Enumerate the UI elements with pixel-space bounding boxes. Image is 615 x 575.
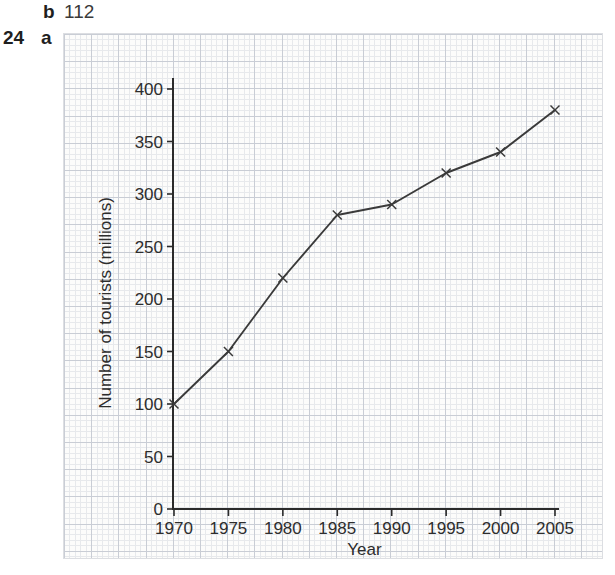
y-tick-label: 100 (135, 395, 163, 414)
x-tick-label: 1980 (264, 519, 302, 538)
y-tick-label: 200 (135, 290, 163, 309)
x-tick-label: 2000 (482, 519, 520, 538)
x-tick-label: 1995 (427, 519, 465, 538)
tourists-line-chart: 0501001502002503003504001970197519801985… (63, 33, 603, 559)
x-tick-label: 1975 (210, 519, 248, 538)
x-tick-label: 1990 (373, 519, 411, 538)
y-tick-label: 350 (135, 133, 163, 152)
y-tick-label: 50 (144, 448, 163, 467)
y-tick-label: 400 (135, 80, 163, 99)
x-axis-title: Year (347, 540, 382, 559)
y-tick-label: 300 (135, 185, 163, 204)
y-axis-title: Number of tourists (millions) (96, 197, 115, 409)
answer-b-value: 112 (64, 2, 94, 21)
y-tick-label: 250 (135, 238, 163, 257)
y-tick-label: 0 (154, 500, 163, 519)
question-number: 24 (3, 28, 24, 47)
answer-b-part-label: b (43, 2, 55, 21)
x-tick-label: 1970 (155, 519, 193, 538)
answer-page: b 112 24 a 05010015020025030035040019701… (0, 0, 615, 575)
x-tick-label: 1985 (318, 519, 356, 538)
x-tick-label: 2005 (536, 519, 574, 538)
question-part-label: a (41, 28, 52, 47)
y-tick-label: 150 (135, 343, 163, 362)
